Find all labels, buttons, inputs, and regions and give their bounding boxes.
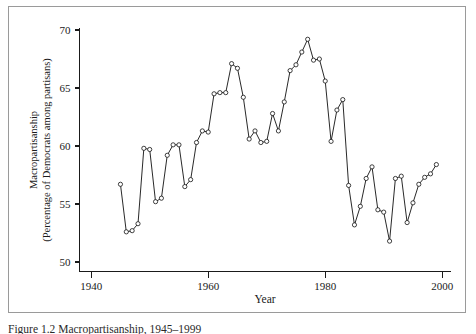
chart-plot-area: 5055606570 1940196019802000 Year Macropa…	[0, 0, 476, 334]
data-point-marker	[230, 62, 234, 66]
data-point-marker	[341, 98, 345, 102]
data-point-marker	[434, 162, 438, 166]
data-point-marker	[189, 178, 193, 182]
data-point-marker	[352, 223, 356, 227]
data-point-marker	[387, 239, 391, 243]
data-point-marker	[411, 201, 415, 205]
data-point-marker	[323, 79, 327, 83]
data-point-marker	[118, 182, 122, 186]
data-point-marker	[206, 130, 210, 134]
data-point-marker	[177, 143, 181, 147]
data-point-marker	[300, 50, 304, 54]
data-point-marker	[428, 172, 432, 176]
y-axis-title: Macropartisanship (Percentage of Democra…	[28, 58, 53, 242]
y-axis-ticks: 5055606570	[60, 24, 80, 268]
data-point-marker	[317, 57, 321, 61]
data-point-marker	[282, 100, 286, 104]
data-point-marker	[306, 37, 310, 41]
data-point-marker	[423, 175, 427, 179]
y-tick-label: 60	[60, 140, 72, 152]
x-tick-label: 1940	[80, 280, 103, 292]
data-point-marker	[311, 58, 315, 62]
data-point-marker	[124, 230, 128, 234]
x-tick-label: 2000	[431, 280, 454, 292]
data-point-marker	[347, 183, 351, 187]
data-point-marker	[265, 139, 269, 143]
series-markers	[118, 37, 438, 243]
data-point-marker	[376, 208, 380, 212]
data-point-marker	[159, 196, 163, 200]
data-point-marker	[153, 200, 157, 204]
data-point-marker	[247, 137, 251, 141]
data-point-marker	[329, 139, 333, 143]
data-point-marker	[335, 108, 339, 112]
data-point-marker	[288, 69, 292, 73]
data-point-marker	[417, 182, 421, 186]
chart-axes	[80, 28, 452, 272]
y-tick-label: 55	[60, 198, 72, 210]
data-point-marker	[224, 91, 228, 95]
data-point-marker	[405, 220, 409, 224]
data-point-marker	[136, 222, 140, 226]
data-point-marker	[370, 165, 374, 169]
x-axis-ticks: 1940196019802000	[80, 272, 454, 292]
data-point-marker	[259, 140, 263, 144]
data-point-marker	[294, 63, 298, 67]
macropartisanship-line-chart: 5055606570 1940196019802000 Year Macropa…	[0, 0, 476, 334]
x-tick-label: 1960	[197, 280, 220, 292]
data-point-marker	[358, 204, 362, 208]
y-tick-label: 50	[60, 256, 72, 268]
data-point-marker	[165, 153, 169, 157]
data-point-marker	[241, 95, 245, 99]
data-point-marker	[235, 66, 239, 70]
x-tick-label: 1980	[314, 280, 337, 292]
data-point-marker	[382, 210, 386, 214]
data-point-marker	[218, 91, 222, 95]
data-point-marker	[194, 140, 198, 144]
figure-caption: Figure 1.2 Macropartisanship, 1945–1999	[8, 322, 308, 334]
data-point-marker	[200, 129, 204, 133]
data-point-marker	[399, 174, 403, 178]
data-point-marker	[130, 229, 134, 233]
y-axis-title-line2: (Percentage of Democrats among partisans…	[41, 58, 53, 242]
data-point-marker	[212, 92, 216, 96]
data-point-marker	[183, 185, 187, 189]
y-tick-label: 70	[60, 24, 72, 36]
data-point-marker	[253, 129, 257, 133]
x-axis-title: Year	[254, 293, 275, 305]
data-point-marker	[393, 176, 397, 180]
data-point-marker	[276, 129, 280, 133]
y-axis-title-line1: Macropartisanship	[28, 111, 39, 189]
data-series-macropartisanship	[118, 37, 438, 243]
data-point-marker	[171, 143, 175, 147]
data-point-marker	[142, 146, 146, 150]
series-line-path	[120, 39, 436, 241]
data-point-marker	[148, 147, 152, 151]
data-point-marker	[270, 111, 274, 115]
data-point-marker	[364, 176, 368, 180]
y-tick-label: 65	[60, 82, 72, 94]
